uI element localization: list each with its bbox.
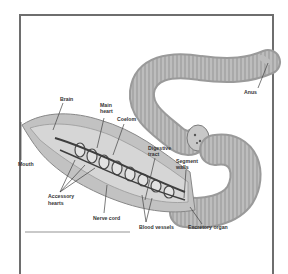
label-segment-walls-2: walls [175,164,189,170]
label-mouth: Mouth [18,161,34,167]
label-anus: Anus [244,89,257,95]
label-blood-vessels: Blood vessels [139,224,174,230]
label-coelom: Coelom [117,116,136,122]
copyright-caption [25,231,130,233]
label-brain: Brain [60,96,73,102]
label-accessory-hearts-1: Accessory [48,193,74,199]
label-nerve-cord: Nerve cord [93,215,120,221]
label-accessory-hearts-2: hearts [48,200,64,206]
label-digestive-tract-2: tract [148,151,160,157]
label-main-heart-2: heart [100,108,113,114]
label-excretory-organ: Excretory organ [188,224,228,230]
